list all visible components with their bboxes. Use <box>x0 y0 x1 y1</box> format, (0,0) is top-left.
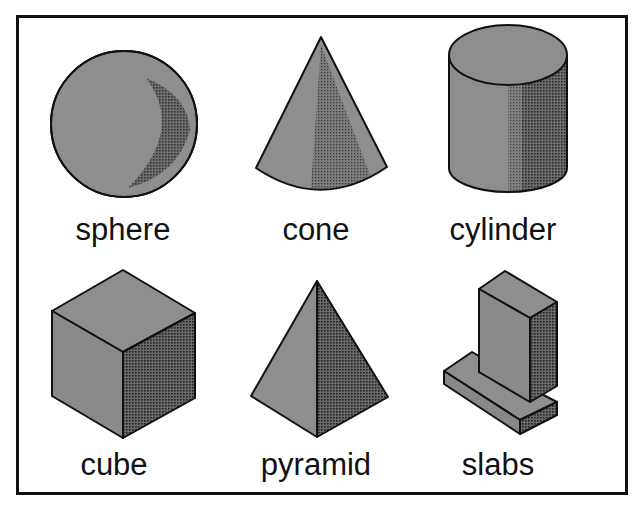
label-slabs: slabs <box>408 449 588 480</box>
slabs-shape <box>444 271 557 434</box>
cone-shape <box>256 37 387 200</box>
label-pyramid: pyramid <box>226 449 406 480</box>
sphere-shape <box>51 51 197 197</box>
label-sphere: sphere <box>33 214 213 245</box>
label-cylinder: cylinder <box>413 214 593 245</box>
label-cube: cube <box>24 449 204 480</box>
shapes-figure: sphere cone cylinder cube pyramid slabs <box>0 0 639 513</box>
pyramid-shape <box>251 281 388 437</box>
cube-shape <box>52 270 195 438</box>
label-cone: cone <box>226 214 406 245</box>
cylinder-shape <box>449 25 568 195</box>
shapes-canvas <box>0 0 639 513</box>
